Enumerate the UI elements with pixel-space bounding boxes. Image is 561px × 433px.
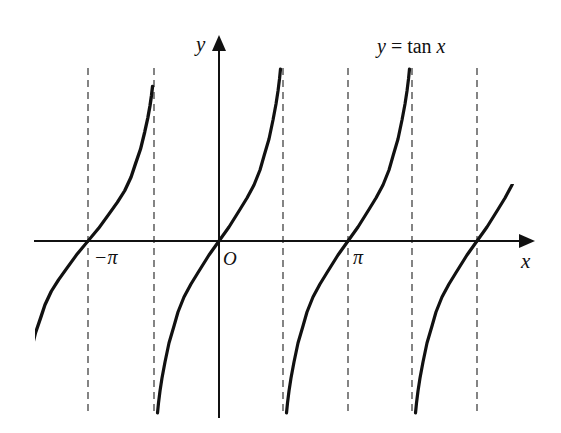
tan-graph: y x O −π π y = tan x	[0, 0, 561, 433]
title-x: x	[436, 35, 446, 57]
y-axis-arrow-icon	[212, 35, 226, 51]
function-title: y = tan x	[375, 35, 446, 58]
x-axis-label: x	[520, 249, 531, 273]
title-tan: tan	[407, 35, 436, 57]
tick-label-neg-pi: −π	[94, 246, 118, 268]
tick-label-pi: π	[353, 246, 364, 268]
title-eq: =	[386, 35, 407, 57]
axes	[34, 35, 535, 418]
y-axis-label: y	[194, 32, 206, 56]
x-axis-arrow-icon	[519, 234, 535, 248]
title-y: y	[375, 35, 386, 58]
origin-label: O	[223, 248, 237, 269]
